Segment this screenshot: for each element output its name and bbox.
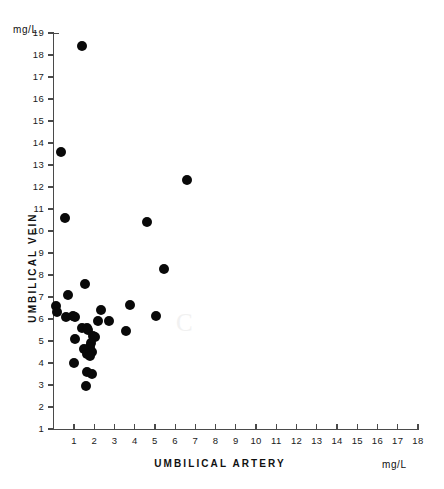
y-tick-mark <box>48 76 54 77</box>
x-tick-mark <box>377 424 378 430</box>
y-tick-mark <box>48 252 54 253</box>
y-tick-label: 18 <box>18 50 44 60</box>
data-point <box>85 342 95 352</box>
x-tick-mark <box>114 424 115 430</box>
y-tick-mark <box>48 54 54 55</box>
y-tick-mark <box>48 318 54 319</box>
x-axis-unit-label: mg/L <box>382 459 407 470</box>
x-tick-mark <box>255 424 256 430</box>
x-tick-mark <box>134 424 135 430</box>
x-tick-mark <box>417 424 418 430</box>
data-point <box>182 175 192 185</box>
data-point <box>82 367 92 377</box>
x-tick-label: 11 <box>266 436 286 446</box>
y-tick-mark <box>48 98 54 99</box>
x-tick-label: 17 <box>388 436 408 446</box>
x-tick-mark <box>94 424 95 430</box>
data-point <box>85 351 95 361</box>
x-tick-label: 8 <box>206 436 226 446</box>
y-tick-label: 2 <box>18 402 44 412</box>
y-tick-mark <box>48 230 54 231</box>
x-tick-label: 10 <box>246 436 266 446</box>
data-point <box>96 305 106 315</box>
data-point <box>83 325 93 335</box>
y-tick-label: 11 <box>18 204 44 214</box>
y-tick-label: 19 <box>18 28 44 38</box>
x-tick-label: 16 <box>367 436 387 446</box>
y-tick-mark <box>48 340 54 341</box>
data-point <box>82 323 92 333</box>
x-tick-label: 5 <box>145 436 165 446</box>
y-tick-mark <box>48 142 54 143</box>
data-point <box>86 338 96 348</box>
data-point <box>68 311 78 321</box>
data-point <box>82 349 92 359</box>
data-point <box>70 312 80 322</box>
data-point <box>61 312 71 322</box>
data-point <box>151 311 161 321</box>
data-point <box>125 300 135 310</box>
x-tick-mark <box>215 424 216 430</box>
x-tick-mark <box>195 424 196 430</box>
x-tick-mark <box>316 424 317 430</box>
data-point <box>80 279 90 289</box>
data-point <box>69 358 79 368</box>
y-tick-mark <box>48 32 54 33</box>
data-point <box>56 147 66 157</box>
data-point <box>60 213 70 223</box>
data-point <box>104 316 114 326</box>
scan-artifact-glyph: C <box>176 309 193 337</box>
data-point <box>93 316 103 326</box>
data-point <box>121 326 131 336</box>
data-point <box>142 217 152 227</box>
x-tick-label: 15 <box>347 436 367 446</box>
x-axis-title: UMBILICAL ARTERY <box>105 458 335 469</box>
y-tick-label: 17 <box>18 72 44 82</box>
y-tick-mark <box>48 296 54 297</box>
y-tick-mark <box>48 120 54 121</box>
y-tick-label: 15 <box>18 116 44 126</box>
y-tick-mark <box>48 406 54 407</box>
x-tick-label: 7 <box>185 436 205 446</box>
y-tick-mark <box>48 428 54 429</box>
scatter-plot-figure: mg/L mg/L UMBILICAL ARTERY UMBILICAL VEI… <box>0 0 444 489</box>
data-point <box>87 369 97 379</box>
data-point <box>77 41 87 51</box>
data-point <box>88 331 98 341</box>
x-tick-mark <box>276 424 277 430</box>
y-tick-label: 8 <box>18 270 44 280</box>
x-tick-label: 12 <box>287 436 307 446</box>
y-tick-mark <box>48 186 54 187</box>
y-tick-mark <box>48 208 54 209</box>
y-tick-mark <box>48 164 54 165</box>
x-tick-mark <box>397 424 398 430</box>
x-tick-mark <box>73 424 74 430</box>
x-tick-mark <box>154 424 155 430</box>
y-tick-mark <box>48 384 54 385</box>
x-tick-label: 9 <box>226 436 246 446</box>
y-tick-label: 3 <box>18 380 44 390</box>
x-tick-label: 18 <box>408 436 428 446</box>
data-point-layer <box>0 0 444 489</box>
y-tick-label: 1 <box>18 424 44 434</box>
data-point <box>87 347 97 357</box>
data-point <box>81 381 91 391</box>
x-tick-mark <box>235 424 236 430</box>
y-tick-label: 10 <box>18 226 44 236</box>
x-tick-label: 2 <box>84 436 104 446</box>
x-tick-label: 4 <box>125 436 145 446</box>
data-point <box>79 344 89 354</box>
x-tick-label: 3 <box>104 436 124 446</box>
x-tick-mark <box>296 424 297 430</box>
data-point <box>159 264 169 274</box>
data-point <box>63 290 73 300</box>
y-tick-label: 5 <box>18 336 44 346</box>
y-tick-label: 13 <box>18 160 44 170</box>
y-tick-label: 14 <box>18 138 44 148</box>
x-tick-label: 1 <box>64 436 84 446</box>
x-tick-mark <box>175 424 176 430</box>
y-tick-label: 12 <box>18 182 44 192</box>
y-tick-label: 16 <box>18 94 44 104</box>
y-tick-label: 9 <box>18 248 44 258</box>
y-tick-label: 7 <box>18 292 44 302</box>
